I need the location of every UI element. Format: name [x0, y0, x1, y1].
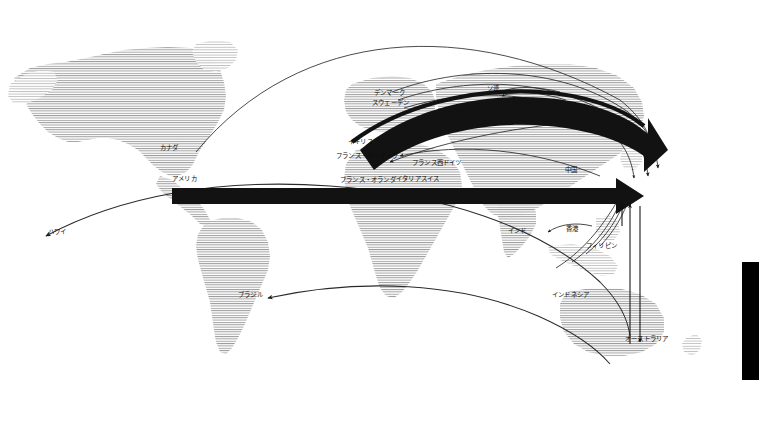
label-canada: カナダ [160, 145, 179, 153]
label-india: インド [508, 228, 527, 236]
land-south-america [196, 218, 270, 354]
world-flow-map-svg [0, 0, 759, 428]
label-brazil: ブラジル [238, 292, 263, 300]
land-new-zealand [682, 334, 702, 356]
label-soviet-union: ソ連 [487, 86, 499, 94]
label-uk: イギリス [348, 139, 373, 147]
label-hongkong: 香港 [566, 226, 578, 234]
label-france-denmark: フランス・デンマーク [336, 153, 398, 161]
label-france-westgermany: フランス西ドイツ [412, 160, 462, 168]
label-italy-switzerland: イタリアスイス [396, 176, 439, 184]
figure-canvas: カナダ アメリカ ハワイ ブラジル デンマーク スウェーデン イギリス フランス… [0, 0, 759, 428]
label-denmark: デンマーク [374, 90, 405, 98]
label-france-netherlands: フランス・オランダ [340, 177, 396, 185]
arc-hawaii-to-indonesia [46, 184, 630, 336]
land-north-america [14, 47, 226, 176]
label-hawaii: ハワイ [48, 229, 67, 237]
label-sweden: スウェーデン [372, 100, 409, 108]
label-australia: オーストラリア [625, 336, 668, 344]
label-indonesia: インドネシア [552, 292, 589, 300]
label-philippines: フィリピン [586, 243, 617, 251]
right-edge-black-bar [742, 262, 759, 380]
label-china: 中国 [565, 167, 577, 175]
label-usa: アメリカ [172, 176, 197, 184]
